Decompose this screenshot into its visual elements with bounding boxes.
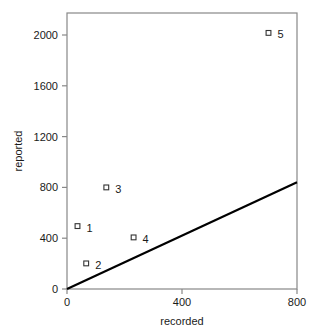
data-point-label-5: 5 [278,28,284,40]
y-tick-label-1600: 1600 [34,80,58,92]
x-axis-title: recorded [160,315,203,327]
data-point-2: 2 [84,259,102,271]
data-point-marker-5 [266,31,271,36]
plot-canvas: 0 400 800 1200 1600 2000 0 400 800 recor… [0,0,318,332]
data-point-marker-4 [131,235,136,240]
y-axis-title: reported [12,131,24,172]
data-point-label-4: 4 [143,233,149,245]
data-point-3: 3 [104,183,122,195]
scatter-plot-figure: 0 400 800 1200 1600 2000 0 400 800 recor… [0,0,318,332]
data-point-4: 4 [131,233,149,245]
y-tick-label-400: 400 [40,232,58,244]
y-tick-label-800: 800 [40,181,58,193]
x-tick-label-400: 400 [173,296,191,308]
data-point-1: 1 [75,222,93,234]
y-tick-label-2000: 2000 [34,29,58,41]
data-point-label-2: 2 [95,259,101,271]
x-axis-tick-marks [67,289,297,294]
data-point-label-3: 3 [115,183,121,195]
y-axis-tick-marks [62,35,67,289]
diagonal-fit-line [67,182,297,289]
y-tick-label-0: 0 [52,283,58,295]
x-tick-label-800: 800 [288,296,306,308]
x-tick-label-0: 0 [64,296,70,308]
data-point-label-1: 1 [87,222,93,234]
data-point-marker-2 [84,261,89,266]
data-point-marker-1 [75,224,80,229]
data-point-5: 5 [266,28,284,40]
y-tick-label-1200: 1200 [34,131,58,143]
data-point-marker-3 [104,185,109,190]
plot-frame-box [67,13,297,289]
